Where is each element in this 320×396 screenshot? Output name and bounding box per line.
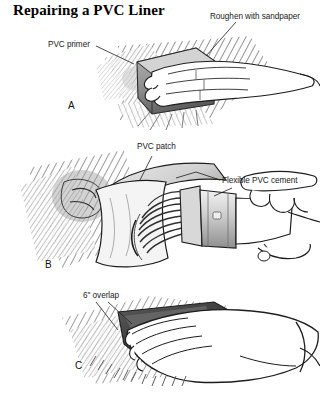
page-title: Repairing a PVC Liner (13, 2, 165, 19)
callout-pvc-primer: PVC primer (48, 40, 90, 49)
panel-b-artwork (20, 150, 320, 268)
callout-six-inch-overlap: 6" overlap (83, 291, 119, 300)
leader-roughen (206, 22, 236, 56)
panel-label-c: C (75, 360, 82, 371)
panel-c-artwork (62, 296, 320, 386)
callout-flexible-pvc-cement: Flexible PVC cement (222, 176, 298, 185)
panel-label-b: B (45, 259, 52, 270)
panel-label-a: A (68, 100, 75, 111)
leader-primer (96, 46, 134, 64)
panel-a-artwork (96, 22, 320, 130)
leader-patch (140, 156, 152, 180)
callout-roughen-with-sandpaper: Roughen with sandpaper (210, 12, 300, 21)
leader-overlap (96, 302, 132, 330)
figure-page: Repairing a PVC Liner (0, 0, 320, 396)
callout-pvc-patch: PVC patch (137, 142, 176, 151)
illustration-artwork (0, 0, 320, 396)
leader-cement (176, 172, 220, 180)
